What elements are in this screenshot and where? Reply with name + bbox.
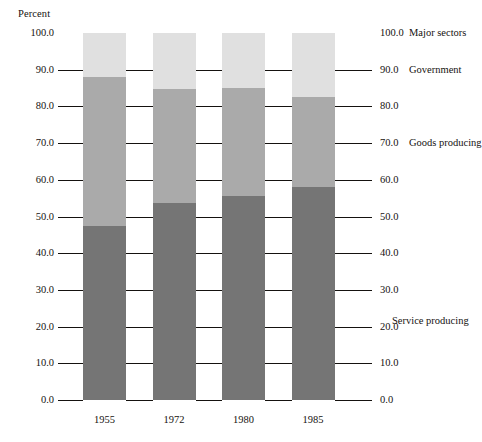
bar-segment-1985-government: [292, 33, 335, 97]
tick-mark-80-2: [196, 106, 223, 107]
y-tick-label-left-30: 30.0: [8, 284, 54, 295]
tick-mark-0-4: [335, 400, 373, 401]
y-tick-label-left-50: 50.0: [8, 211, 54, 222]
tick-mark-40-4: [335, 253, 373, 254]
tick-mark-70-2: [196, 143, 223, 144]
x-tick-label-1980: 1980: [214, 414, 274, 426]
tick-mark-20-2: [196, 327, 223, 328]
bar-segment-1972-goods-producing: [153, 89, 196, 203]
y-tick-label-right-100: 100.0: [380, 27, 404, 38]
bar-segment-1955-goods-producing: [83, 77, 126, 226]
tick-mark-30-4: [335, 290, 373, 291]
tick-mark-40-3: [265, 253, 292, 254]
tick-mark-40-0: [58, 253, 83, 254]
bar-segment-1955-government: [83, 33, 126, 77]
tick-mark-60-1: [126, 180, 153, 181]
tick-mark-30-2: [196, 290, 223, 291]
tick-mark-90-3: [265, 70, 292, 71]
bar-1955: [83, 33, 126, 400]
tick-mark-20-0: [58, 327, 83, 328]
tick-mark-50-4: [335, 217, 373, 218]
tick-mark-20-4: [335, 327, 373, 328]
tick-mark-80-1: [126, 106, 153, 107]
y-tick-label-left-80: 80.0: [8, 100, 54, 111]
tick-mark-90-2: [196, 70, 223, 71]
annotation-major-sectors: Major sectors: [409, 27, 466, 39]
y-tick-label-left-70: 70.0: [8, 137, 54, 148]
y-tick-label-left-60: 60.0: [8, 174, 54, 185]
tick-mark-30-3: [265, 290, 292, 291]
annotation-government: Government: [409, 64, 462, 76]
tick-mark-30-0: [58, 290, 83, 291]
tick-mark-60-4: [335, 180, 373, 181]
y-tick-label-right-10: 10.0: [380, 357, 398, 368]
tick-mark-80-4: [335, 106, 373, 107]
tick-mark-10-1: [126, 363, 153, 364]
tick-mark-20-1: [126, 327, 153, 328]
y-tick-label-left-40: 40.0: [8, 247, 54, 258]
x-tick-label-1955: 1955: [75, 414, 135, 426]
bar-segment-1980-goods-producing: [222, 88, 265, 196]
x-tick-label-1972: 1972: [144, 414, 204, 426]
tick-mark-30-1: [126, 290, 153, 291]
tick-mark-80-0: [58, 106, 83, 107]
y-axis-title: Percent: [18, 8, 50, 20]
tick-mark-10-0: [58, 363, 83, 364]
tick-mark-90-0: [58, 70, 83, 71]
tick-mark-70-0: [58, 143, 83, 144]
tick-mark-10-3: [265, 363, 292, 364]
y-tick-label-right-0: 0.0: [380, 394, 393, 405]
y-tick-label-left-100: 100.0: [8, 27, 54, 38]
bar-1972: [153, 33, 196, 400]
y-tick-label-right-90: 90.0: [380, 64, 398, 75]
tick-mark-90-1: [126, 70, 153, 71]
bar-1985: [292, 33, 335, 400]
tick-mark-60-3: [265, 180, 292, 181]
tick-mark-40-1: [126, 253, 153, 254]
tick-mark-80-3: [265, 106, 292, 107]
bar-segment-1972-service-producing: [153, 203, 196, 400]
bar-segment-1972-government: [153, 33, 196, 89]
tick-mark-0-1: [126, 400, 153, 401]
y-tick-label-right-60: 60.0: [380, 174, 398, 185]
tick-mark-60-2: [196, 180, 223, 181]
bar-segment-1980-government: [222, 33, 265, 88]
tick-mark-10-4: [335, 363, 373, 364]
tick-mark-0-3: [265, 400, 292, 401]
tick-mark-50-1: [126, 217, 153, 218]
x-tick-label-1985: 1985: [283, 414, 343, 426]
annotation-service-producing: Service producing: [392, 315, 469, 327]
y-tick-label-right-80: 80.0: [380, 100, 398, 111]
y-tick-label-left-10: 10.0: [8, 357, 54, 368]
tick-mark-20-3: [265, 327, 292, 328]
y-tick-label-left-0: 0.0: [8, 394, 54, 405]
y-tick-label-right-40: 40.0: [380, 247, 398, 258]
tick-mark-70-4: [335, 143, 373, 144]
tick-mark-40-2: [196, 253, 223, 254]
tick-mark-10-2: [196, 363, 223, 364]
tick-mark-50-3: [265, 217, 292, 218]
bar-segment-1955-service-producing: [83, 226, 126, 400]
y-tick-label-left-90: 90.0: [8, 64, 54, 75]
y-tick-label-left-20: 20.0: [8, 321, 54, 332]
tick-mark-70-3: [265, 143, 292, 144]
tick-mark-70-1: [126, 143, 153, 144]
tick-mark-50-0: [58, 217, 83, 218]
annotation-goods-producing: Goods producing: [409, 137, 482, 149]
tick-mark-60-0: [58, 180, 83, 181]
y-tick-label-right-30: 30.0: [380, 284, 398, 295]
bar-segment-1980-service-producing: [222, 196, 265, 400]
bar-segment-1985-service-producing: [292, 187, 335, 400]
y-tick-label-right-50: 50.0: [380, 211, 398, 222]
bar-segment-1985-goods-producing: [292, 97, 335, 187]
tick-mark-90-4: [335, 70, 373, 71]
tick-mark-50-2: [196, 217, 223, 218]
y-tick-label-right-70: 70.0: [380, 137, 398, 148]
bar-1980: [222, 33, 265, 400]
tick-mark-0-2: [196, 400, 223, 401]
tick-mark-0-0: [58, 400, 83, 401]
